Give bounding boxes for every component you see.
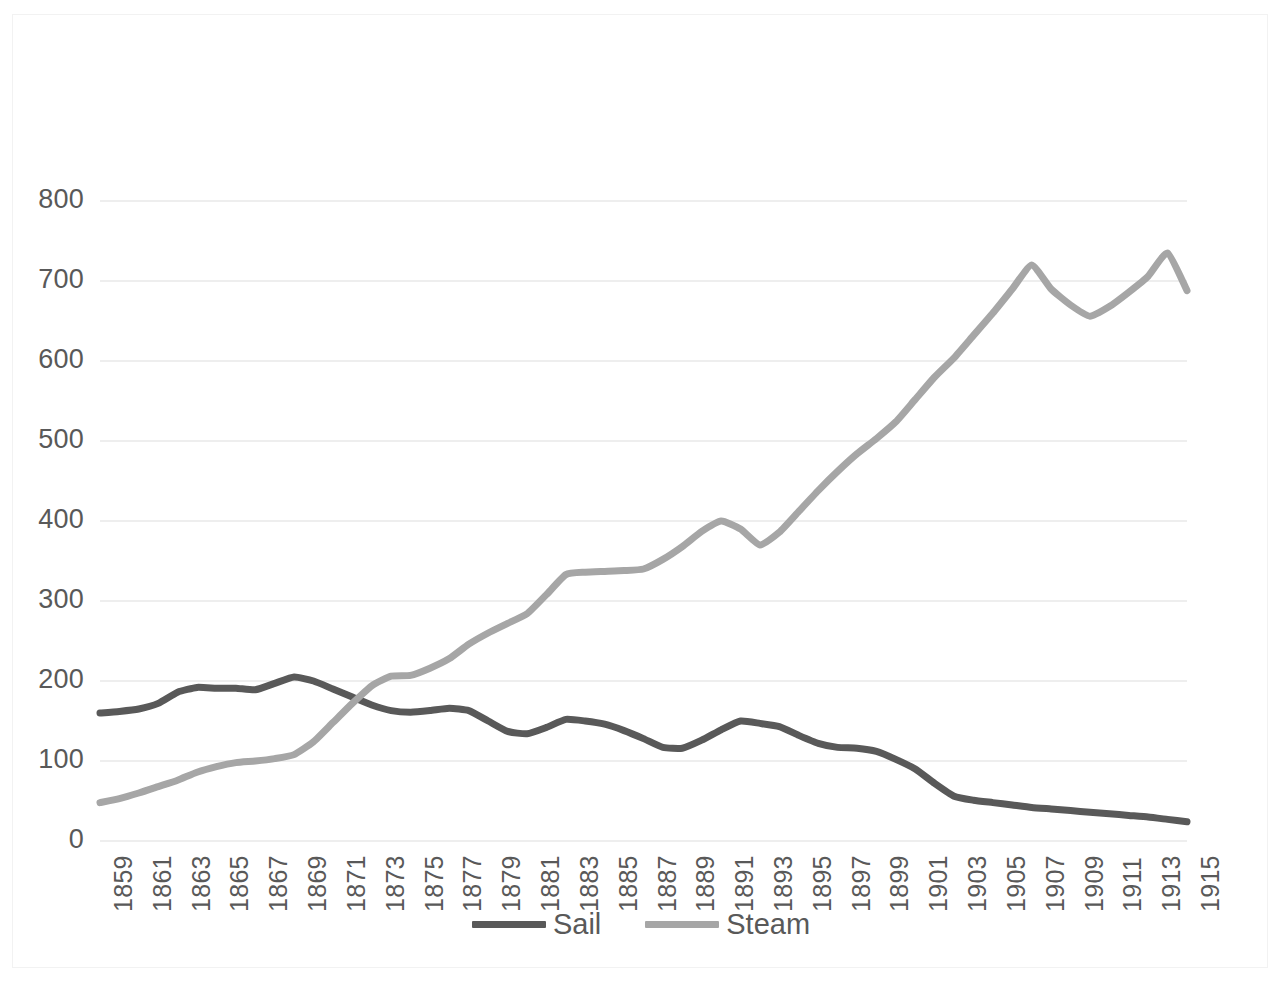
legend-swatch-icon (472, 921, 546, 928)
x-axis-tick-label: 1893 (769, 855, 798, 912)
x-axis-tick-label: 1863 (187, 855, 216, 912)
series-lines (100, 253, 1187, 822)
x-axis-tick-label: 1909 (1080, 855, 1109, 912)
x-axis-tick-label: 1865 (225, 855, 254, 912)
y-axis-tick-label: 100 (8, 744, 84, 775)
y-axis-tick-label: 600 (8, 344, 84, 375)
y-axis-tick-label: 0 (8, 824, 84, 855)
x-axis-tick-label: 1915 (1196, 855, 1225, 912)
x-axis-tick-label: 1889 (691, 855, 720, 912)
legend-label: Steam (726, 908, 810, 941)
x-axis-tick-label: 1879 (497, 855, 526, 912)
x-axis-tick-label: 1891 (730, 855, 759, 912)
x-axis-tick-label: 1911 (1118, 857, 1147, 912)
x-axis-tick-label: 1887 (653, 855, 682, 912)
y-axis-tick-label: 700 (8, 264, 84, 295)
y-axis-tick-label: 400 (8, 504, 84, 535)
legend-label: Sail (553, 908, 601, 941)
x-axis-tick-label: 1873 (381, 855, 410, 912)
x-axis-tick-label: 1895 (808, 855, 837, 912)
x-axis-tick-label: 1903 (963, 855, 992, 912)
gridlines (100, 201, 1187, 841)
x-axis-tick-label: 1899 (885, 855, 914, 912)
chart-legend: SailSteam (0, 908, 1282, 941)
x-axis-tick-label: 1885 (614, 855, 643, 912)
x-axis-tick-label: 1859 (109, 855, 138, 912)
x-axis-tick-label: 1897 (847, 855, 876, 912)
x-axis-tick-label: 1861 (148, 855, 177, 912)
line-chart-plot (0, 0, 1282, 983)
x-axis-tick-label: 1907 (1041, 855, 1070, 912)
y-axis-tick-label: 200 (8, 664, 84, 695)
legend-swatch-icon (645, 921, 719, 928)
x-axis-tick-label: 1901 (924, 855, 953, 912)
y-axis-tick-label: 500 (8, 424, 84, 455)
x-axis-tick-label: 1881 (536, 855, 565, 912)
x-axis-tick-label: 1871 (342, 855, 371, 912)
legend-item-steam[interactable]: Steam (645, 908, 810, 941)
x-axis-tick-label: 1883 (575, 855, 604, 912)
x-axis-tick-label: 1869 (303, 855, 332, 912)
series-line-steam (100, 253, 1187, 803)
x-axis-tick-label: 1905 (1002, 855, 1031, 912)
legend-item-sail[interactable]: Sail (472, 908, 601, 941)
y-axis-tick-label: 800 (8, 184, 84, 215)
x-axis-tick-label: 1913 (1157, 855, 1186, 912)
x-axis-tick-label: 1877 (458, 855, 487, 912)
series-line-sail (100, 677, 1187, 822)
y-axis-tick-label: 300 (8, 584, 84, 615)
x-axis-tick-label: 1875 (420, 855, 449, 912)
x-axis-tick-label: 1867 (264, 855, 293, 912)
